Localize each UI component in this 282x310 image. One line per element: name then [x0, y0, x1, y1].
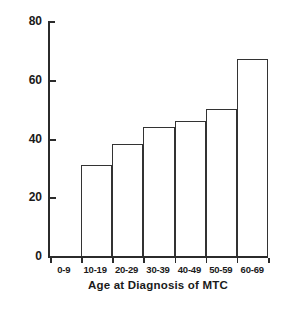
bar-series — [50, 21, 268, 256]
x-axis-tick-label: 60-69 — [237, 263, 268, 277]
bar-slot — [175, 21, 206, 256]
x-axis-tick-label: 10-19 — [79, 263, 110, 277]
y-axis-tick-label: 40 — [29, 132, 42, 146]
bar[interactable] — [112, 144, 143, 256]
x-axis-tick-labels: 0-910-1920-2930-3940-4950-5960-69 — [48, 263, 268, 277]
x-axis-tick-label: 0-9 — [48, 263, 79, 277]
x-axis-title: Age at Diagnosis of MTC — [40, 279, 276, 291]
bar-slot — [81, 21, 112, 256]
bar[interactable] — [206, 109, 237, 256]
bar[interactable] — [143, 127, 174, 256]
bar-slot — [112, 21, 143, 256]
bar-slot — [143, 21, 174, 256]
plot-area: 020406080 — [48, 21, 268, 258]
x-axis-tick-label: 20-29 — [111, 263, 142, 277]
bar-slot — [50, 21, 81, 256]
chart-figure: Incidence of Recurrence, % 020406080 0-9… — [0, 0, 282, 310]
y-axis-tick-label: 20 — [29, 190, 42, 204]
y-axis-tick-label: 80 — [29, 14, 42, 28]
x-axis-tick-label: 50-59 — [205, 263, 236, 277]
bar-slot — [206, 21, 237, 256]
bar[interactable] — [175, 121, 206, 256]
bar[interactable] — [237, 59, 268, 256]
bar-slot — [237, 21, 268, 256]
y-axis-tick-label: 0 — [35, 249, 42, 263]
bar[interactable] — [81, 165, 112, 256]
x-axis-tick-mark — [268, 258, 270, 263]
x-axis-tick-label: 30-39 — [142, 263, 173, 277]
x-axis-tick-label: 40-49 — [174, 263, 205, 277]
y-axis-tick-label: 60 — [29, 73, 42, 87]
